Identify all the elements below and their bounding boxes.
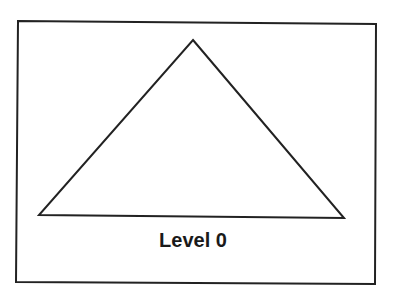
level-label: Level 0 <box>0 229 386 252</box>
triangle-shape <box>39 40 344 218</box>
diagram-canvas <box>0 0 396 298</box>
